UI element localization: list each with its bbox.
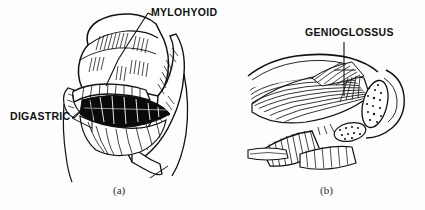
label-genioglossus: GENIOGLOSSUS bbox=[305, 27, 394, 38]
mylohyoid-body-outline bbox=[78, 14, 168, 96]
label-mylohyoid: MYLOHYOID bbox=[151, 7, 217, 18]
label-digastric: DIGASTRIC bbox=[10, 111, 70, 122]
mylohyoid-sheet-edge bbox=[248, 148, 288, 160]
caption-panel-a: (a) bbox=[113, 185, 125, 196]
anatomy-figure: MYLOHYOID DIGASTRIC GENIOGLOSSUS (a) (b) bbox=[0, 0, 425, 210]
caption-panel-b: (b) bbox=[320, 185, 333, 196]
